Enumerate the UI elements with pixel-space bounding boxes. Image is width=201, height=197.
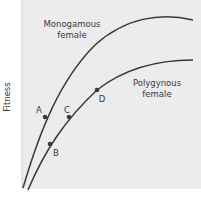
- polygynous-label: Polygynous: [133, 78, 182, 88]
- point-b-label: B: [53, 148, 59, 158]
- point-a: [43, 115, 48, 120]
- y-axis-label: Fitness: [2, 82, 12, 112]
- point-d-label: D: [99, 94, 106, 104]
- point-c: [67, 115, 72, 120]
- point-d: [95, 88, 100, 93]
- fitness-diagram: Fitness Monogamous female Polygynous fem…: [0, 0, 201, 197]
- monogamous-label: Monogamous: [43, 19, 101, 29]
- polygynous-label-2: female: [142, 89, 171, 99]
- monogamous-label-2: female: [57, 30, 86, 40]
- point-a-label: A: [36, 105, 42, 115]
- point-c-label: C: [64, 105, 70, 115]
- point-b: [48, 142, 53, 147]
